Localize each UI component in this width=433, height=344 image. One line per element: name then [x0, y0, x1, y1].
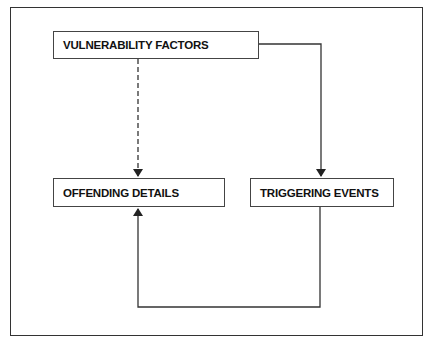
node-label: TRIGGERING EVENTS [260, 187, 379, 199]
node-label: OFFENDING DETAILS [63, 187, 179, 199]
node-label: VULNERABILITY FACTORS [63, 39, 209, 51]
node-triggering-events: TRIGGERING EVENTS [250, 178, 394, 207]
edge-triggering-to-offending [138, 207, 320, 307]
node-offending-details: OFFENDING DETAILS [53, 178, 225, 207]
node-vulnerability-factors: VULNERABILITY FACTORS [53, 31, 259, 59]
edge-vulnerability-to-triggering [259, 44, 321, 176]
